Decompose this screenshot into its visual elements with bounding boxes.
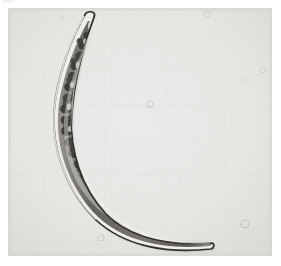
figure-label: (a)	[3, 0, 12, 4]
figure-page: (a)	[0, 0, 281, 266]
film-grain-overlay	[8, 8, 272, 256]
photomicrograph-plate	[8, 8, 272, 256]
micrograph-canvas	[8, 8, 272, 256]
